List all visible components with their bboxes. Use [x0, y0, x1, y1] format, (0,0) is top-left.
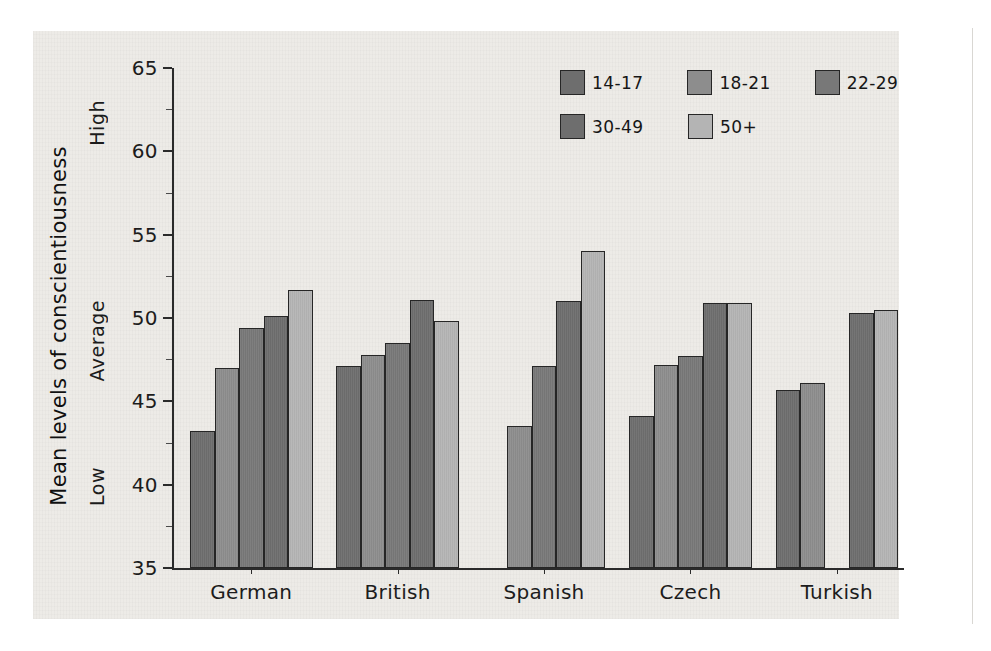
bar [434, 321, 459, 568]
x-axis-tick [251, 568, 252, 574]
legend-item-18-21[interactable]: 18-21 [687, 70, 770, 95]
y-axis-tick [163, 567, 172, 569]
y-axis-tick-label: 55 [132, 223, 158, 247]
bar [215, 368, 240, 568]
legend-item-22-29[interactable]: 22-29 [815, 70, 898, 95]
chart-legend: 14-1718-2122-2930-4950+ [560, 70, 890, 158]
figure-canvas: Mean levels of conscientiousness 3540455… [0, 0, 991, 651]
x-axis-category-label: Spanish [504, 580, 585, 604]
bar [336, 366, 361, 568]
bar [800, 383, 825, 568]
x-axis-category-label: German [210, 580, 292, 604]
y-axis-minor-tick [166, 359, 172, 360]
legend-row: 30-4950+ [560, 114, 890, 139]
legend-label: 14-17 [592, 73, 643, 93]
legend-label: 50+ [720, 117, 757, 137]
y-axis-tick-label: 35 [132, 556, 158, 580]
x-axis-tick [398, 568, 399, 574]
bar [678, 356, 703, 568]
x-axis-category-label: British [365, 580, 431, 604]
bar [190, 431, 215, 568]
x-axis-tick [544, 568, 545, 574]
y-axis-annotation-average: Average [86, 300, 108, 382]
legend-item-50-[interactable]: 50+ [688, 114, 772, 139]
bar [581, 251, 606, 568]
y-axis-minor-tick [166, 443, 172, 444]
legend-label: 18-21 [719, 73, 770, 93]
bar [654, 365, 679, 568]
bar [849, 313, 874, 568]
bar [532, 366, 557, 568]
y-axis-tick-label: 60 [132, 139, 158, 163]
legend-item-30-49[interactable]: 30-49 [560, 114, 644, 139]
y-axis-minor-tick [166, 109, 172, 110]
bar [361, 355, 386, 568]
y-axis-tick-label: 40 [132, 473, 158, 497]
bar [556, 301, 581, 568]
legend-item-14-17[interactable]: 14-17 [560, 70, 643, 95]
bar [776, 390, 801, 568]
y-axis-tick [163, 317, 172, 319]
y-axis-title: Mean levels of conscientiousness [47, 146, 71, 506]
y-axis-minor-tick [166, 193, 172, 194]
bar [874, 310, 899, 568]
bar [288, 290, 313, 568]
legend-swatch-icon [560, 114, 585, 139]
bar [264, 316, 289, 568]
y-axis-tick-label: 65 [132, 56, 158, 80]
bar [703, 303, 728, 568]
y-axis-tick [163, 150, 172, 152]
y-axis-tick [163, 67, 172, 69]
legend-swatch-icon [688, 114, 713, 139]
legend-swatch-icon [687, 70, 712, 95]
bar [410, 300, 435, 568]
legend-label: 22-29 [847, 73, 898, 93]
y-axis-annotation-high: High [86, 100, 108, 146]
bar [629, 416, 654, 568]
x-axis-tick [690, 568, 691, 574]
y-axis-tick [163, 234, 172, 236]
page-edge-rule [972, 28, 973, 624]
y-axis-tick-label: 50 [132, 306, 158, 330]
x-axis-line [172, 568, 904, 570]
x-axis-category-label: Czech [659, 580, 721, 604]
y-axis-line [172, 68, 174, 568]
bar [507, 426, 532, 568]
y-axis-tick [163, 484, 172, 486]
x-axis-category-label: Turkish [801, 580, 873, 604]
bar [385, 343, 410, 568]
y-axis-minor-tick [166, 526, 172, 527]
x-axis-tick [837, 568, 838, 574]
legend-row: 14-1718-2122-29 [560, 70, 890, 95]
legend-label: 30-49 [592, 117, 643, 137]
bar [239, 328, 264, 568]
y-axis-tick [163, 400, 172, 402]
y-axis-minor-tick [166, 276, 172, 277]
y-axis-tick-label: 45 [132, 389, 158, 413]
y-axis-annotation-low: Low [86, 467, 108, 506]
bar [727, 303, 752, 568]
legend-swatch-icon [560, 70, 585, 95]
legend-swatch-icon [815, 70, 840, 95]
